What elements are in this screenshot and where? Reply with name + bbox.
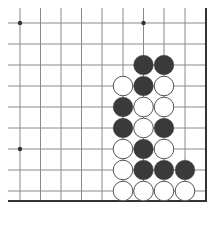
hoshi-point <box>18 147 22 151</box>
black-stone <box>175 160 195 180</box>
go-board[interactable] <box>0 0 215 230</box>
black-stone <box>134 139 154 159</box>
black-stone <box>134 76 154 96</box>
white-stone <box>113 160 133 180</box>
white-stone <box>154 139 174 159</box>
black-stone <box>154 160 174 180</box>
white-stone <box>113 181 133 201</box>
black-stone <box>154 118 174 138</box>
black-stone <box>134 160 154 180</box>
hoshi-point <box>141 21 145 25</box>
white-stone <box>134 118 154 138</box>
black-stone <box>134 55 154 75</box>
white-stone <box>175 181 195 201</box>
black-stone <box>113 118 133 138</box>
white-stone <box>154 76 174 96</box>
white-stone <box>154 97 174 117</box>
black-stone <box>154 55 174 75</box>
black-stone <box>113 97 133 117</box>
white-stone <box>134 97 154 117</box>
white-stone <box>154 181 174 201</box>
white-stone <box>113 76 133 96</box>
white-stone <box>113 139 133 159</box>
white-stone <box>134 181 154 201</box>
hoshi-point <box>18 21 22 25</box>
